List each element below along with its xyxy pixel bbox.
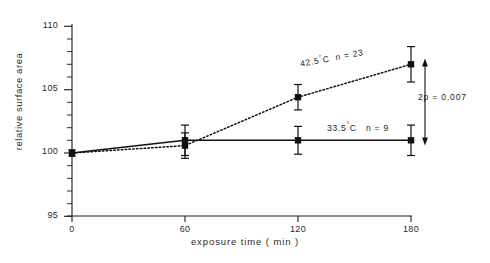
series-annotation-42-5C-unit: C [322, 54, 331, 65]
p-value-arrow [422, 59, 428, 146]
y-axis-label: relative surface area [13, 22, 24, 182]
chart-figure: relative surface area exposure time ( mi… [0, 0, 490, 263]
x-major-ticks [72, 216, 411, 222]
series-points-42-5C [68, 47, 415, 159]
series-line-33-5C [72, 140, 411, 153]
series-annotation-33-5C: 33.5°C n = 9 [327, 121, 389, 133]
p-value-label: 2p = 0.007 [418, 92, 467, 102]
y-tick-label-95: 95 [32, 210, 58, 220]
x-axis-label: exposure time ( min ) [0, 236, 490, 247]
y-tick-label-105: 105 [32, 83, 58, 93]
x-tick-label-0: 0 [57, 224, 87, 234]
x-tick-label-180: 180 [396, 224, 426, 234]
x-tick-label-120: 120 [283, 224, 313, 234]
series-annotation-33-5C-n: n = 9 [366, 123, 389, 133]
y-tick-label-100: 100 [32, 146, 58, 156]
y-tick-label-110: 110 [32, 20, 58, 30]
series-annotation-33-5C-unit: C [350, 123, 357, 133]
series-annotation-33-5C-temp: 33.5 [327, 123, 347, 133]
y-minor-ticks [67, 39, 72, 204]
y-major-ticks [64, 26, 72, 216]
x-tick-label-60: 60 [170, 224, 200, 234]
